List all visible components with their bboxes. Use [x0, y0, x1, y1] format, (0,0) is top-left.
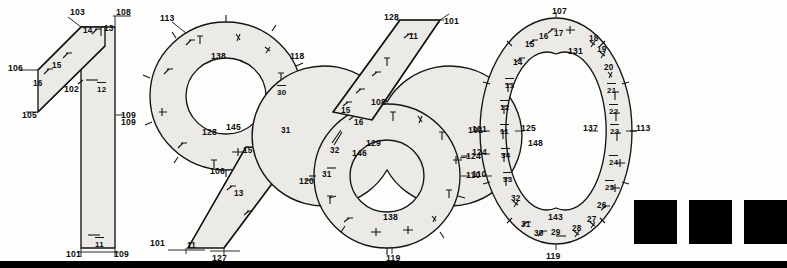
reference-label-0-24-22: 24 — [609, 155, 618, 167]
reference-label-0-32-26: 32 — [511, 195, 521, 203]
reference-label-9-118-1: 118 — [290, 52, 304, 61]
reference-label-6-15-4: 15 — [341, 107, 351, 115]
reference-label-9-101-11: 101 — [150, 239, 165, 248]
reference-label-0-16-2: 16 — [539, 33, 549, 41]
reference-label-1-13-3: 13 — [104, 25, 114, 33]
reference-label-0-15-6: 15 — [525, 41, 535, 49]
reference-label-0-125-15: 125 — [521, 124, 536, 133]
black-square-2 — [689, 200, 732, 244]
reference-label-0-21-9: 21 — [607, 83, 616, 95]
black-square-3 — [744, 200, 787, 244]
reference-label-0-31-30: 31 — [521, 221, 531, 229]
reference-label-0-25-25: 25 — [605, 180, 614, 192]
reference-label-0-13-10: 13 — [505, 78, 514, 90]
reference-label-1-16-5: 16 — [33, 80, 43, 88]
reference-label-1-11-11: 11 — [95, 237, 104, 249]
reference-label-0-113-18: 113 — [636, 124, 650, 133]
reference-label-0-14-8: 14 — [513, 59, 523, 67]
reference-label-9-128-5: 128 — [202, 128, 217, 137]
reference-label-1-105-7: 105 — [22, 111, 37, 120]
reference-label-1-102-8: 102 — [64, 85, 79, 94]
reference-label-0-20-7: 20 — [604, 64, 614, 72]
reference-label-0-33-24: 33 — [503, 172, 512, 184]
reference-label-9-113-0: 113 — [160, 14, 174, 23]
reference-label-9-106-8: 106 — [210, 167, 225, 176]
reference-label-1-14-2: 14 — [83, 27, 93, 35]
reference-label-9-30-3: 30 — [277, 85, 286, 97]
reference-label-0-107-0: 107 — [552, 7, 567, 16]
black-square-1 — [634, 200, 677, 244]
reference-label-0-148-19: 148 — [528, 139, 543, 148]
bottom-black-bar — [0, 261, 787, 268]
reference-label-0-119-34: 119 — [546, 252, 560, 261]
reference-label-1-12-9: 12 — [97, 82, 106, 94]
reference-label-0-110-23: 110 — [472, 170, 486, 179]
reference-label-0-101-13: 101 — [472, 125, 487, 134]
reference-label-1-108-1: 108 — [116, 8, 131, 17]
reference-label-0-23-17: 23 — [610, 124, 619, 136]
reference-label-0-137-16: 137 — [583, 124, 598, 133]
reference-label-1-101-12: 101 — [66, 250, 81, 259]
reference-label-6-11-2: 11 — [409, 33, 418, 41]
reference-label-1-109-13: 109 — [114, 250, 129, 259]
figure-canvas: 1031081413151610610510212109111011091131… — [0, 0, 787, 268]
reference-label-9-138-2: 138 — [211, 52, 226, 61]
reference-label-1-15-4: 15 — [52, 62, 62, 70]
reference-label-0-34-21: 34 — [501, 148, 510, 160]
reference-label-9-15-7: 15 — [243, 147, 253, 155]
reference-label-6-146-7: 146 — [352, 149, 367, 158]
reference-label-6-31-9: 31 — [322, 171, 332, 179]
reference-label-1-103-0: 103 — [70, 8, 85, 17]
reference-label-0-131-1: 131 — [568, 47, 583, 56]
reference-label-0-27-28: 27 — [587, 216, 597, 224]
reference-label-0-19-5: 19 — [597, 46, 607, 54]
reference-label-6-108-3: 108 — [371, 98, 386, 107]
reference-label-9-145-4: 145 — [226, 123, 241, 132]
reference-label-0-28-31: 28 — [572, 225, 582, 233]
reference-label-0-22-11: 22 — [609, 104, 618, 116]
reference-label-6-16-5: 16 — [354, 119, 364, 127]
reference-label-9-13-10: 13 — [234, 190, 244, 198]
reference-label-0-18-4: 18 — [589, 35, 599, 43]
reference-label-6-129-6: 129 — [366, 139, 381, 148]
reference-label-6-138-11: 138 — [383, 213, 398, 222]
reference-label-0-26-27: 26 — [597, 202, 607, 210]
reference-label-6-32-8: 32 — [330, 147, 340, 155]
reference-label-6-101-1: 101 — [444, 17, 459, 26]
reference-label-0-124-20: 124 — [472, 148, 487, 157]
reference-label-0-11-14: 11 — [500, 124, 509, 136]
reference-label-9-11-12: 11 — [187, 242, 196, 250]
reference-label-6-128-0: 128 — [384, 13, 399, 22]
reference-label-0-17-3: 17 — [554, 30, 564, 38]
reference-label-0-29-32: 29 — [551, 229, 561, 237]
reference-label-1-106-6: 106 — [8, 64, 23, 73]
reference-label-0-143-29: 143 — [548, 213, 563, 222]
reference-label-9-109-9: 109 — [121, 118, 136, 127]
reference-label-6-120-10: 120 — [299, 177, 314, 186]
reference-label-9-31-6: 31 — [281, 127, 291, 135]
digit-one-outline — [20, 16, 131, 257]
reference-label-0-30-33: 30 — [534, 230, 544, 238]
reference-label-0-12-12: 12 — [500, 100, 509, 112]
